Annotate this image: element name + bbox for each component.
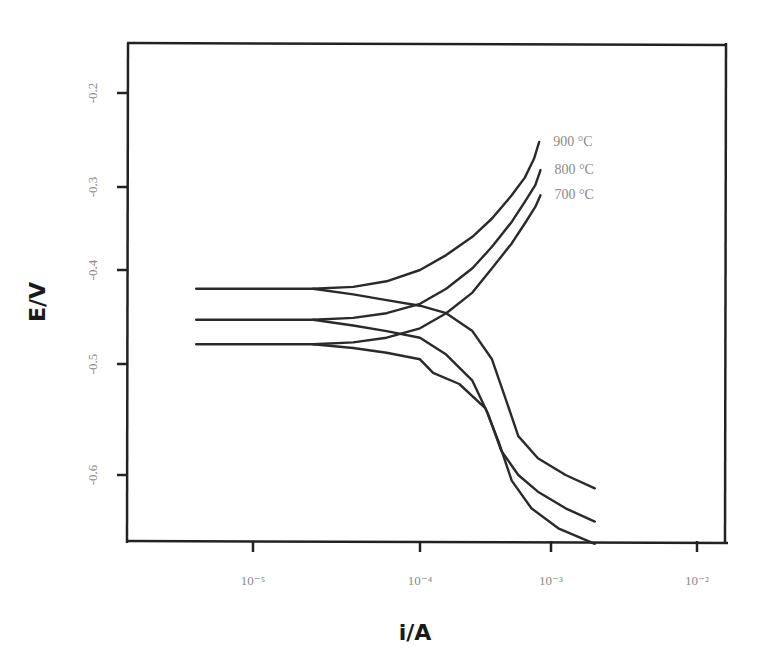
right-border (725, 43, 726, 542)
plot-frame (127, 43, 728, 543)
curve-label: 800 °C (555, 162, 594, 177)
x-axis (127, 541, 728, 543)
y-tick-label: -0.6 (85, 464, 100, 485)
x-tick-label: 10⁻⁴ (408, 573, 433, 588)
y-tick-label: -0.4 (85, 259, 100, 280)
x-tick-label: 10⁻² (685, 573, 709, 588)
x-axis-title: i/A (399, 620, 432, 645)
y-tick-label: -0.3 (85, 177, 100, 198)
curve-label: 900 °C (553, 134, 592, 149)
x-tick-label: 10⁻⁵ (241, 573, 266, 588)
y-tick-label: -0.5 (85, 354, 100, 375)
y-tick-label: -0.2 (85, 83, 100, 104)
curve-800c-cathodic (313, 320, 595, 522)
top-border (127, 43, 727, 45)
curve-700c-cathodic (313, 344, 595, 544)
polarization-chart: -0.2-0.3-0.4-0.5-0.6 10⁻⁵10⁻⁴10⁻³10⁻² 90… (0, 0, 765, 663)
y-axis-title: E/V (25, 282, 50, 322)
x-axis-ticks: 10⁻⁵10⁻⁴10⁻³10⁻² (241, 541, 709, 588)
curve-label: 700 °C (555, 187, 594, 202)
x-tick-label: 10⁻³ (539, 573, 563, 588)
polarization-curves (196, 142, 595, 544)
y-axis (127, 43, 128, 543)
curve-labels: 900 °C800 °C700 °C (553, 134, 594, 202)
curve-900c-anodic (196, 142, 539, 289)
y-axis-ticks: -0.2-0.3-0.4-0.5-0.6 (85, 83, 128, 486)
curve-700c-anodic (196, 195, 540, 344)
